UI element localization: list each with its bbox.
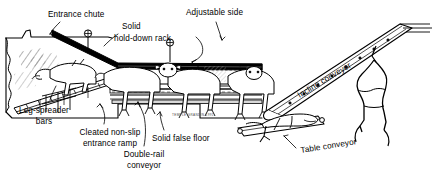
label-leg-spreader-bars-line2: bars [8,117,80,127]
label-double-rail-conveyor-line1: Double-rail [100,150,188,160]
label-adjustable-side: Adjustable side [186,8,243,18]
diagram-artwork [0,0,434,186]
label-hold-down-rack-line1: Solid [122,22,141,32]
artist-credit-watermark: TEMPLE GRANDIN 1991 [172,113,214,117]
label-double-rail-conveyor-line2: conveyor [100,161,188,171]
restrainer-system-diagram: Entrance chute Solid hold-down rack Adju… [0,0,434,186]
label-solid-false-floor: Solid false floor [152,134,210,144]
label-entrance-chute: Entrance chute [48,10,104,20]
label-hold-down-rack-line2: hold-down rack [114,34,171,44]
label-cleated-ramp-line2: entrance ramp [62,139,158,149]
label-cleated-ramp-line1: Cleated non-slip [62,128,158,138]
hanging-carcass-group [355,60,389,146]
label-leg-spreader-bars-line1: Leg-spreader [8,106,80,116]
